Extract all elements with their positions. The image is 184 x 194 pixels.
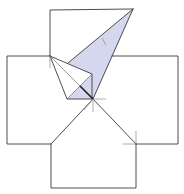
diagonal-left: [51, 99, 93, 144]
left-square: [7, 56, 51, 144]
shaded-triangle: [68, 9, 133, 99]
tick-center-diag: [84, 99, 93, 110]
geometric-diagram: [0, 0, 184, 194]
bottom-square: [51, 144, 136, 188]
right-square: [112, 56, 178, 144]
diagonal-right: [93, 99, 136, 144]
